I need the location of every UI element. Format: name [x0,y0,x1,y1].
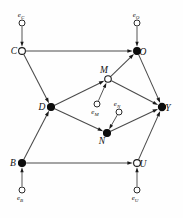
edge-N-to-Y-arrowhead [152,109,158,113]
edge-C-to-D-arrowhead [45,98,49,104]
error-label-eM: eM [91,108,99,117]
error-label-eC: eC [18,11,25,20]
node-B [19,160,26,167]
error-node-eC [19,20,25,26]
edge-M-to-Y [111,81,154,103]
error-edge-eM-to-M [98,86,104,100]
error-node-eU [134,187,140,193]
edge-C-to-D [24,55,47,100]
edge-U-to-Y [139,115,159,160]
error-label-eO: eO [133,11,140,20]
edge-M-to-O [111,57,131,76]
edge-M-to-Y-arrowhead [152,101,158,105]
node-D [48,104,55,111]
edge-O-to-Y-arrowhead [156,97,160,103]
edge-D-to-M-arrowhead [99,81,105,85]
node-label-C: C [11,46,18,56]
error-edge-eU-to-U-arrowhead [135,167,138,172]
edge-D-to-M [55,83,101,106]
node-label-Y: Y [165,103,172,113]
edge-B-to-D [24,115,47,160]
edge-D-to-N-arrowhead [97,127,103,131]
error-node-eO [134,20,140,26]
node-label-U: U [140,159,148,169]
node-label-O: O [140,47,147,57]
error-label-eB: eB [17,194,23,203]
edge-B-to-D-arrowhead [45,111,49,117]
error-edge-eB-to-B-arrowhead [20,167,23,172]
edge-B-to-U-arrowhead [127,161,132,165]
error-edge-eN-to-N-arrowhead [109,124,113,129]
error-edge-eN-to-N [111,115,117,126]
node-M [105,76,112,83]
error-node-eB [19,187,25,193]
node-label-B: B [10,158,16,168]
node-label-M: M [99,65,109,75]
label-layer: eCeOeMeNeBeUCODMNYBU [10,11,172,203]
edge-O-to-Y [139,55,159,100]
edge-U-to-Y-arrowhead [156,111,160,117]
error-label-eU: eU [132,194,139,203]
error-edge-eO-to-O-arrowhead [135,42,138,47]
node-label-N: N [98,136,106,146]
error-node-eN [116,109,122,115]
node-C [19,48,26,55]
error-edge-eM-to-M-arrowhead [103,83,107,88]
node-label-D: D [38,102,46,112]
error-edge-eC-to-C-arrowhead [20,42,23,47]
dag-canvas: eCeOeMeNeBeUCODMNYBU [0,0,183,218]
error-node-eM [94,101,100,107]
causal-dag-figure: eCeOeMeNeBeUCODMNYBU [0,0,183,218]
error-label-eN: eN [114,100,121,109]
error-node-layer [19,20,140,193]
edge-C-to-O-arrowhead [127,49,132,53]
